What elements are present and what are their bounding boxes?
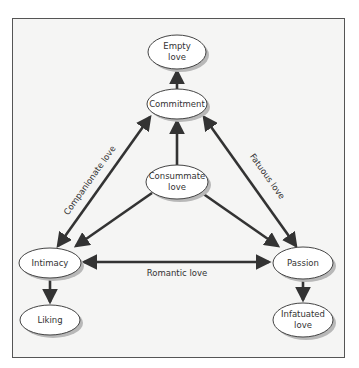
- svg-text:love: love: [168, 182, 186, 192]
- edge-consummate-to-intimacy: [76, 193, 152, 246]
- label-romantic-love: Romantic love: [147, 268, 208, 278]
- svg-text:Intimacy: Intimacy: [32, 258, 69, 268]
- label-fatuous-love: Fatuous love: [248, 152, 287, 201]
- svg-text:Empty: Empty: [163, 41, 190, 51]
- label-companionate-love: Companionate love: [61, 144, 117, 217]
- node-commitment: Commitment: [147, 89, 210, 122]
- svg-text:Consummate: Consummate: [149, 171, 206, 181]
- node-passion: Passion: [273, 247, 336, 282]
- svg-text:love: love: [294, 320, 312, 330]
- node-empty-love: Empty love: [148, 35, 209, 72]
- node-intimacy: Intimacy: [19, 248, 84, 281]
- svg-text:Passion: Passion: [287, 258, 319, 268]
- svg-text:Liking: Liking: [37, 315, 62, 325]
- node-infatuated-love: Infatuated love: [273, 303, 336, 340]
- svg-text:love: love: [168, 52, 186, 62]
- svg-text:Commitment: Commitment: [149, 99, 205, 109]
- love-triangle-diagram: Companionate love Fatuous love Romantic …: [0, 0, 359, 368]
- edge-consummate-to-passion: [202, 193, 278, 246]
- node-consummate-love: Consummate love: [146, 165, 211, 202]
- svg-text:Infatuated: Infatuated: [281, 309, 325, 319]
- node-liking: Liking: [20, 305, 83, 338]
